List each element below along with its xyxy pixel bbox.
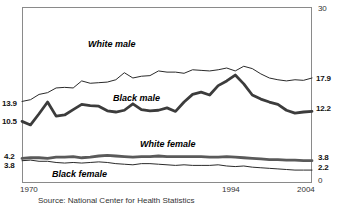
- left-axis-tick-3-8: 3.8: [4, 161, 15, 170]
- source-note: Source: National Center for Health Stati…: [38, 196, 195, 205]
- x-axis-tick-2004: 2004: [297, 185, 315, 194]
- series-label-white-male: White male: [88, 39, 136, 49]
- left-axis-tick-4-2: 4.2: [4, 152, 15, 161]
- right-axis-tick-30: 30: [318, 4, 327, 13]
- chart-container: 13.9 10.5 4.2 3.8 30 17.9 12.2 3.8 2.2 0…: [0, 0, 341, 211]
- right-axis-tick-12-2: 12.2: [316, 104, 331, 113]
- left-axis-tick-10-5: 10.5: [2, 117, 17, 126]
- series-label-white-female: White female: [140, 139, 196, 149]
- x-axis-tick-1970: 1970: [20, 185, 38, 194]
- plot-area: [22, 7, 312, 183]
- left-axis-tick-13-9: 13.9: [2, 99, 17, 108]
- right-axis-tick-0: 0: [318, 176, 322, 185]
- series-label-black-female: Black female: [52, 169, 107, 179]
- right-axis-tick-3-8: 3.8: [318, 153, 329, 162]
- series-label-black-male: Black male: [113, 93, 160, 103]
- x-axis-tick-1994: 1994: [222, 185, 240, 194]
- right-axis-tick-2-2: 2.2: [318, 163, 329, 172]
- right-axis-tick-17-9: 17.9: [316, 74, 331, 83]
